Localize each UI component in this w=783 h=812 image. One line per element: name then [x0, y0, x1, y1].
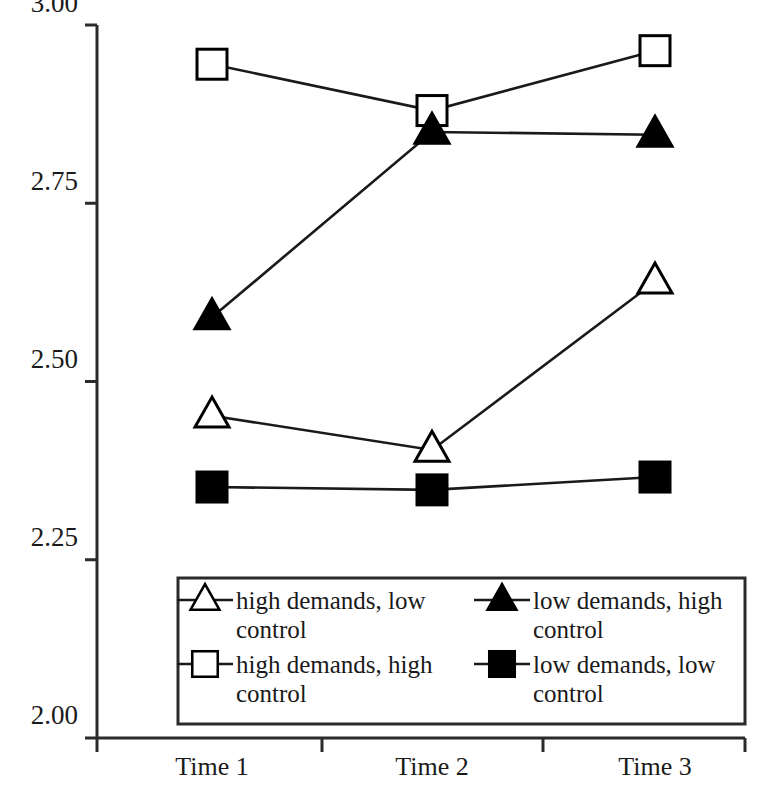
y-tick-label-3-00: 3.00 — [0, 0, 78, 19]
data-point-marker — [197, 472, 227, 502]
data-point-marker — [417, 475, 447, 505]
data-point-marker — [638, 116, 672, 146]
data-point-marker — [197, 49, 227, 79]
y-tick-label-2-75: 2.75 — [0, 166, 78, 197]
series-0-markers — [195, 263, 672, 461]
y-tick-label-2-25: 2.25 — [0, 522, 78, 553]
x-category-label-time-2: Time 2 — [352, 752, 512, 782]
legend-marker-swatch — [489, 651, 515, 677]
legend-marker-swatch — [191, 584, 220, 610]
series-3-markers — [197, 462, 670, 505]
data-point-marker — [640, 36, 670, 66]
data-point-marker — [195, 299, 229, 329]
series-2-markers — [195, 113, 672, 328]
legend-label-line2: control — [236, 680, 307, 707]
series-0 — [212, 282, 655, 450]
x-axis-ticks — [97, 738, 745, 752]
series-line — [212, 282, 655, 450]
series-1-markers — [197, 36, 670, 126]
data-point-marker — [415, 431, 449, 461]
series-layer — [195, 36, 672, 505]
legend-label-line1: low demands, low — [533, 651, 716, 678]
legend-label-line2: control — [236, 616, 307, 643]
scan-artifact — [2, 790, 5, 802]
legend-label-high-demands-low-control: high demands, low control — [236, 586, 446, 644]
y-tick-label-2-50: 2.50 — [0, 344, 78, 375]
x-category-label-time-1: Time 1 — [132, 752, 292, 782]
data-point-marker — [640, 462, 670, 492]
legend-label-line2: control — [533, 616, 604, 643]
data-point-marker — [195, 397, 229, 427]
legend-marker-swatch — [488, 584, 517, 610]
data-point-marker — [638, 263, 672, 293]
series-line — [212, 132, 655, 317]
y-axis-ticks — [85, 25, 97, 738]
chart-figure: 2.00 2.25 2.50 2.75 3.00 Time 1 Time 2 T… — [0, 0, 783, 812]
legend-label-low-demands-low-control: low demands, low control — [533, 650, 743, 708]
series-2 — [212, 132, 655, 317]
legend-label-high-demands-high-control: high demands, high control — [236, 650, 451, 708]
legend-label-low-demands-high-control: low demands, high control — [533, 586, 743, 644]
legend-label-line2: control — [533, 680, 604, 707]
legend-marker-swatch — [192, 651, 218, 677]
legend-label-line1: low demands, high — [533, 587, 723, 614]
legend-label-line1: high demands, low — [236, 587, 426, 614]
x-category-label-time-3: Time 3 — [575, 752, 735, 782]
legend-label-line1: high demands, high — [236, 651, 433, 678]
y-tick-label-2-00: 2.00 — [0, 700, 78, 731]
